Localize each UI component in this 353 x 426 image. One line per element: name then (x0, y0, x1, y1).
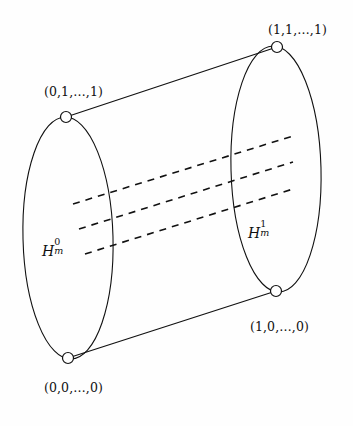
dashed-line-1 (73, 136, 293, 204)
left-face-ellipse (20, 116, 116, 360)
vertex-label-bottom-left: (0,0,…,0) (44, 380, 103, 395)
right-face-ellipse (228, 45, 324, 293)
vertex-label-bottom-right: (1,0,…,0) (250, 319, 309, 334)
vertex-marker-bottom-left (63, 353, 74, 364)
vertex-marker-top-right (272, 42, 283, 53)
left-face-label-base: H (42, 243, 54, 259)
vertex-label-top-left: (0,1,…,1) (44, 84, 103, 99)
left-face-label-subscript: m (54, 245, 63, 256)
vertex-marker-top-left (61, 112, 72, 123)
right-face-label-subscript: m (260, 227, 269, 238)
vertex-marker-bottom-right (271, 286, 282, 297)
top-edge (66, 47, 277, 117)
right-face-label: H1m (248, 224, 267, 241)
right-face-label-base: H (248, 225, 260, 241)
bottom-edge (68, 291, 276, 358)
vertex-label-top-right: (1,1,…,1) (268, 22, 327, 37)
left-face-label: H0m (42, 242, 61, 259)
figure-canvas: (1,1,…,1) (0,1,…,1) (0,0,…,0) (1,0,…,0) … (0, 0, 353, 426)
diagram-svg (0, 0, 353, 426)
